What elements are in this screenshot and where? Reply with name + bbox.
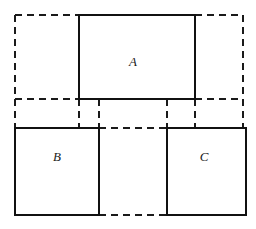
solid-rectangles <box>15 15 246 215</box>
rectangle-a <box>79 15 195 99</box>
rectangle-c <box>167 128 246 215</box>
rectangle-b <box>15 128 99 215</box>
figure-canvas: A B C <box>0 0 256 229</box>
geometry-diagram: A B C <box>0 0 256 229</box>
region-label-c: C <box>200 149 209 164</box>
region-label-a: A <box>128 54 137 69</box>
region-label-b: B <box>53 149 61 164</box>
